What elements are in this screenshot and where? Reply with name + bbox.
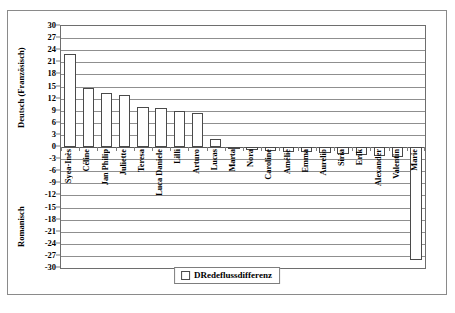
y-tick-label: -9 <box>49 177 56 187</box>
y-tick-label: -18 <box>45 214 56 224</box>
x-tick-mark <box>261 147 262 151</box>
y-tick-label: 24 <box>48 44 57 54</box>
bar <box>119 95 130 147</box>
x-tick-mark <box>298 147 299 151</box>
chart-legend: DRedeflussdifferenz <box>174 267 280 284</box>
gridline <box>61 232 425 233</box>
x-tick-mark <box>352 147 353 151</box>
legend-label: DRedeflussdifferenz <box>194 270 272 280</box>
bar <box>174 111 185 147</box>
x-tick-mark <box>152 147 153 151</box>
y-tick-label: -12 <box>45 189 56 199</box>
y-tick-label: -15 <box>45 202 56 212</box>
y-tick-label: 27 <box>48 32 57 42</box>
y-axis-tick-labels: 302724211815129630-3-6-9-12-15-18-21-24-… <box>32 11 60 294</box>
y-tick-label: 18 <box>48 68 57 78</box>
bar <box>337 147 348 154</box>
square-outline-icon <box>181 271 190 280</box>
y-tick-label: -27 <box>45 250 56 260</box>
gridline <box>61 123 425 124</box>
x-tick-mark <box>316 147 317 151</box>
x-tick-mark <box>407 147 408 151</box>
x-tick-mark <box>61 147 62 151</box>
bar <box>283 147 294 152</box>
gridline <box>61 111 425 112</box>
gridline <box>61 38 425 39</box>
bar <box>301 147 312 152</box>
plot-area <box>60 25 426 269</box>
gridline <box>61 159 425 160</box>
gridline <box>61 135 425 136</box>
bar <box>246 147 257 150</box>
bar <box>64 54 75 147</box>
gridline <box>61 195 425 196</box>
x-tick-mark <box>79 147 80 151</box>
gridline <box>61 62 425 63</box>
x-tick-mark <box>225 147 226 151</box>
bar <box>374 147 385 156</box>
bar <box>319 147 330 153</box>
gridline <box>61 244 425 245</box>
y-tick-label: -21 <box>45 226 56 236</box>
y-tick-label: 15 <box>48 81 57 91</box>
bar <box>83 88 94 147</box>
x-tick-mark <box>279 147 280 151</box>
y-tick-label: 21 <box>48 56 57 66</box>
gridline <box>61 171 425 172</box>
y-axis-title-top: Deutsch (Französisch) <box>16 25 26 150</box>
chart-container: Deutsch (Französisch) Romanisch 30272421… <box>7 10 447 295</box>
x-tick-mark <box>116 147 117 151</box>
gridline <box>61 256 425 257</box>
x-tick-mark <box>207 147 208 151</box>
x-tick-mark <box>134 147 135 151</box>
y-tick-label: -3 <box>49 153 56 163</box>
x-tick-mark <box>424 147 425 151</box>
gridline <box>61 220 425 221</box>
y-tick-label: -30 <box>45 262 56 272</box>
bar <box>356 147 367 155</box>
y-tick-label: -6 <box>49 165 56 175</box>
y-tick-label: 30 <box>48 20 57 30</box>
bar <box>137 107 148 147</box>
x-tick-mark <box>389 147 390 151</box>
y-tick-label: 12 <box>48 93 57 103</box>
x-tick-mark <box>97 147 98 151</box>
bar <box>210 139 221 147</box>
y-tick-label: -24 <box>45 238 56 248</box>
bar <box>101 93 112 147</box>
bar <box>265 147 276 151</box>
bar <box>192 113 203 147</box>
x-tick-mark <box>243 147 244 151</box>
bar <box>228 147 239 149</box>
bar <box>410 147 421 260</box>
gridline <box>61 208 425 209</box>
gridline <box>61 87 425 88</box>
gridline <box>61 50 425 51</box>
gridline <box>61 99 425 100</box>
x-tick-mark <box>188 147 189 151</box>
gridline <box>61 183 425 184</box>
x-tick-mark <box>170 147 171 151</box>
bar <box>392 147 403 157</box>
x-tick-mark <box>370 147 371 151</box>
gridline <box>61 74 425 75</box>
bar <box>155 108 166 147</box>
x-tick-mark <box>334 147 335 151</box>
y-axis-title-bottom: Romanisch <box>16 186 26 268</box>
